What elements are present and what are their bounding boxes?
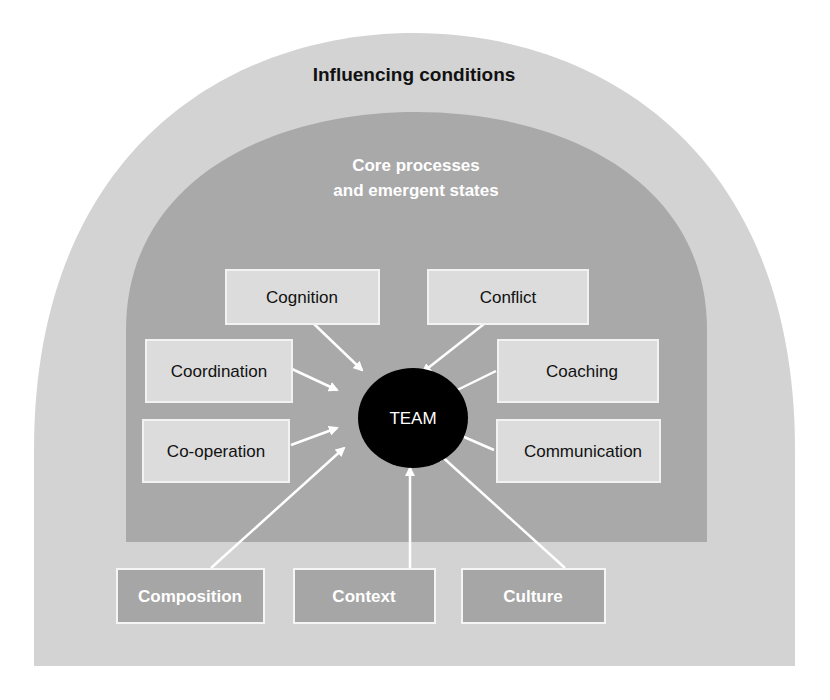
svg-text:Co-operation: Co-operation (167, 442, 265, 461)
influencing-conditions-title: Influencing conditions (313, 64, 516, 85)
svg-text:Culture: Culture (503, 587, 563, 606)
condition-box-composition: Composition (117, 569, 264, 623)
process-box-communication: Communication (497, 420, 660, 482)
process-box-coaching: Coaching (498, 340, 658, 402)
process-box-coordination: Coordination (146, 340, 292, 402)
process-box-cognition: Cognition (226, 270, 379, 324)
svg-text:Composition: Composition (138, 587, 242, 606)
svg-text:Conflict: Conflict (480, 288, 537, 307)
team-label: TEAM (389, 409, 436, 428)
core-processes-title-line1: Core processes (352, 156, 480, 175)
condition-box-culture: Culture (462, 569, 605, 623)
svg-text:Coordination: Coordination (171, 362, 267, 381)
svg-text:Coaching: Coaching (546, 362, 618, 381)
process-box-co-operation: Co-operation (143, 420, 289, 482)
team-effectiveness-diagram: Influencing conditions Core processes an… (0, 0, 830, 700)
svg-text:Communication: Communication (524, 442, 642, 461)
process-box-conflict: Conflict (428, 270, 588, 324)
svg-text:Context: Context (332, 587, 396, 606)
svg-text:Cognition: Cognition (266, 288, 338, 307)
condition-box-context: Context (294, 569, 435, 623)
team-node: TEAM (358, 368, 468, 468)
core-processes-title-line2: and emergent states (333, 181, 498, 200)
